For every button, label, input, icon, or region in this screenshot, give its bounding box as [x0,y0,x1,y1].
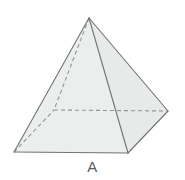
figure-stage: A [0,0,185,180]
square-pyramid-diagram [0,0,185,180]
figure-label-a: A [0,158,185,176]
